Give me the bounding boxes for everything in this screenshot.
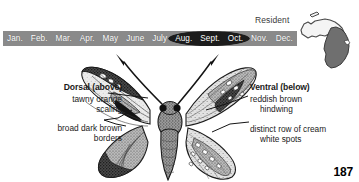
- month-label-nov: Nov.: [251, 31, 268, 46]
- dorsal-annotation-line-2: scaling: [4, 104, 122, 115]
- month-label-row: Jan. Feb. Mar. Apr. May June July Aug. S…: [3, 31, 297, 46]
- ventral-annotation-line-3: distinct row of cream: [250, 124, 358, 135]
- ventral-annotation-heading: Ventral (below): [250, 82, 358, 93]
- dorsal-annotation-line-3: broad dark brown: [4, 123, 122, 134]
- month-label-jan: Jan.: [7, 31, 23, 46]
- month-label-feb: Feb.: [31, 31, 48, 46]
- month-label-june: June: [126, 31, 144, 46]
- dorsal-annotation-heading: Dorsal (above): [4, 82, 122, 93]
- month-label-july: July: [152, 31, 167, 46]
- antenna-left-club: [116, 54, 124, 66]
- butterfly-abdomen: [161, 129, 178, 180]
- month-label-sept: Sept.: [200, 31, 220, 46]
- month-label-dec: Dec.: [276, 31, 293, 46]
- isle-royale-shape: [310, 12, 319, 17]
- month-label-oct: Oct.: [228, 31, 243, 46]
- month-label-may: May: [103, 31, 119, 46]
- ventral-annotation-line-2: hindwing: [250, 104, 358, 115]
- michigan-range-map: [298, 8, 358, 70]
- dorsal-annotation-line-1: tawny orange: [4, 94, 122, 105]
- field-guide-page: Resident Jan. Feb. Mar. Apr. May June Ju…: [0, 0, 359, 182]
- dorsal-annotation-block: Dorsal (above) tawny orange scaling broa…: [4, 82, 122, 144]
- antenna-right-club: [211, 54, 219, 66]
- dorsal-annotation-line-4: borders: [4, 133, 122, 144]
- month-label-aug: Aug.: [175, 31, 192, 46]
- month-label-mar: Mar.: [55, 31, 71, 46]
- range-status-label: Resident: [255, 15, 289, 25]
- ventral-annotation-line-1: reddish brown: [250, 94, 302, 104]
- month-label-apr: Apr.: [80, 31, 95, 46]
- ventral-annotation-block: Ventral (below) reddish brown hindwing d…: [250, 82, 358, 145]
- ventral-annotation-line-4: white spots: [250, 134, 358, 145]
- page-number: 187: [334, 165, 353, 179]
- phenology-month-bar: Jan. Feb. Mar. Apr. May June July Aug. S…: [3, 31, 297, 46]
